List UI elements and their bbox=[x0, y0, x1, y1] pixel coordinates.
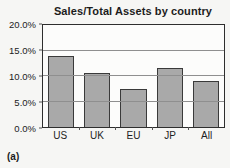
bar-us bbox=[48, 56, 74, 127]
bar-eu bbox=[120, 89, 146, 127]
gridline bbox=[43, 75, 224, 76]
y-axis: 0.0%5.0%10.0%15.0%20.0% bbox=[0, 24, 42, 128]
y-tick-label: 5.0% bbox=[14, 97, 36, 108]
x-label-uk: UK bbox=[79, 130, 116, 141]
chart-body: 0.0%5.0%10.0%15.0%20.0% bbox=[0, 24, 225, 128]
bar-slot bbox=[115, 25, 151, 127]
x-axis: USUKEUJPAll bbox=[42, 130, 225, 141]
y-tick-label: 15.0% bbox=[9, 45, 36, 56]
gridline bbox=[43, 101, 224, 102]
bars-container bbox=[43, 25, 224, 127]
x-label-all: All bbox=[188, 130, 225, 141]
bar-chart-figure: Sales/Total Assets by country 0.0%5.0%10… bbox=[0, 0, 230, 168]
bar-slot bbox=[79, 25, 115, 127]
y-tick-label: 20.0% bbox=[9, 19, 36, 30]
y-tick-label: 10.0% bbox=[9, 71, 36, 82]
x-tick-mark bbox=[79, 127, 80, 130]
gridline bbox=[43, 50, 224, 51]
figure-label: (a) bbox=[7, 151, 19, 162]
y-tick-label: 0.0% bbox=[14, 123, 36, 134]
x-label-us: US bbox=[42, 130, 79, 141]
bar-slot bbox=[43, 25, 79, 127]
bar-slot bbox=[152, 25, 188, 127]
x-label-eu: EU bbox=[115, 130, 152, 141]
x-label-jp: JP bbox=[152, 130, 189, 141]
x-tick-mark bbox=[115, 127, 116, 130]
x-tick-mark bbox=[152, 127, 153, 130]
x-tick-mark bbox=[188, 127, 189, 130]
bar-slot bbox=[188, 25, 224, 127]
bar-all bbox=[193, 81, 219, 127]
plot-area bbox=[42, 24, 225, 128]
chart-title: Sales/Total Assets by country bbox=[40, 5, 226, 17]
bar-jp bbox=[157, 68, 183, 127]
